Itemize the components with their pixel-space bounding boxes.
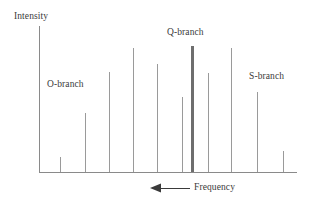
y-axis-label: Intensity <box>14 11 48 21</box>
spectral-line <box>85 113 86 172</box>
o-branch-annotation: O-branch <box>47 79 84 89</box>
spectrum-figure: Intensity Frequency O-branch Q-branch S-… <box>0 0 313 202</box>
spectrum-plot <box>0 0 313 202</box>
spectral-line <box>208 73 209 172</box>
spectral-line-group <box>60 46 284 172</box>
q-branch-line <box>191 46 194 172</box>
spectral-line <box>283 151 284 172</box>
frequency-arrow <box>150 184 190 193</box>
spectral-line <box>231 48 232 172</box>
spectral-line <box>60 157 61 172</box>
x-axis-label: Frequency <box>194 182 235 192</box>
q-branch-annotation: Q-branch <box>167 27 204 37</box>
spectral-line <box>257 92 258 172</box>
spectral-line <box>182 97 183 172</box>
spectral-line <box>109 72 110 172</box>
frequency-arrow-head <box>150 184 161 193</box>
s-branch-annotation: S-branch <box>249 71 284 81</box>
spectral-line <box>157 64 158 172</box>
spectral-line <box>133 48 134 172</box>
